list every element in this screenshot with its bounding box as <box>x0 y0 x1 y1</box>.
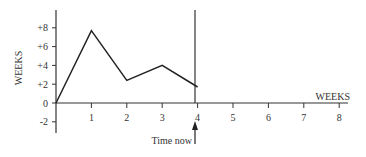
x-tick-label: 6 <box>266 112 271 123</box>
x-axis-label: WEEKS <box>316 91 350 102</box>
y-tick-label: +8 <box>37 22 48 33</box>
time-now-label: Time now <box>152 135 193 146</box>
slippage-chart: +8+6+4+20-2 12345678 WEEKS WEEKS Time no… <box>0 0 366 157</box>
y-tick-label: -2 <box>40 116 48 127</box>
y-ticks: +8+6+4+20-2 <box>37 22 56 127</box>
y-tick-label: +6 <box>37 41 48 52</box>
x-tick-label: 3 <box>160 112 165 123</box>
y-axis-label: WEEKS <box>13 51 24 85</box>
x-tick-label: 5 <box>231 112 236 123</box>
x-tick-label: 4 <box>195 112 200 123</box>
y-tick-label: +4 <box>37 60 48 71</box>
x-tick-label: 8 <box>337 112 342 123</box>
x-tick-label: 2 <box>124 112 129 123</box>
data-line <box>56 31 198 103</box>
x-tick-label: 7 <box>301 112 306 123</box>
x-ticks: 12345678 <box>89 103 342 123</box>
y-tick-label: +2 <box>37 79 48 90</box>
x-tick-label: 1 <box>89 112 94 123</box>
y-tick-label: 0 <box>43 98 48 109</box>
